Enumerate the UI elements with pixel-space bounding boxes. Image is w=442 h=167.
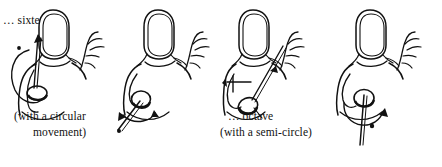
panel-quarte: … quarte (with a lateral movement) bbox=[221, 0, 331, 167]
bell-guard-quarte bbox=[236, 95, 261, 117]
panel-sixte: … sixte (with a circular movement) bbox=[0, 0, 110, 167]
target-dot-sixte bbox=[17, 46, 21, 50]
blade-quarte bbox=[252, 46, 286, 102]
arrowhead-sixte bbox=[34, 34, 43, 43]
target-dot-septime bbox=[370, 124, 374, 128]
lateral-movement-arrow-quarte bbox=[227, 76, 251, 92]
fencer-illustration-septime bbox=[331, 0, 441, 167]
arrowhead-septime bbox=[379, 108, 388, 117]
label-sixte: … sixte bbox=[3, 14, 40, 28]
target-dot-octave bbox=[117, 129, 121, 133]
caption-sixte-line-2: movement) bbox=[33, 126, 86, 140]
fencing-parries-figure: … sixte (with a circular movement) bbox=[0, 0, 442, 167]
panel-octave: … octave (with a semi-circle) bbox=[110, 0, 220, 167]
fencer-illustration-quarte bbox=[221, 0, 331, 167]
caption-sixte-line-1: (with a circular bbox=[14, 110, 86, 124]
fencer-illustration-octave bbox=[110, 0, 220, 167]
panel-septime: … septime (with a semi-circle) bbox=[331, 0, 441, 167]
